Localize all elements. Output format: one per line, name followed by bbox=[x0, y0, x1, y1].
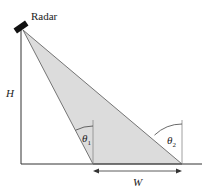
angle-2-label: θ2 bbox=[167, 135, 176, 149]
arrowhead-left-icon bbox=[93, 169, 99, 174]
width-label: W bbox=[133, 177, 142, 188]
radar-label: Radar bbox=[31, 11, 57, 22]
radar-beam bbox=[23, 30, 182, 164]
angle-1-label: θ1 bbox=[82, 133, 91, 147]
arrowhead-right-icon bbox=[176, 169, 182, 174]
radar-diagram bbox=[0, 0, 211, 191]
height-label: H bbox=[6, 88, 14, 99]
